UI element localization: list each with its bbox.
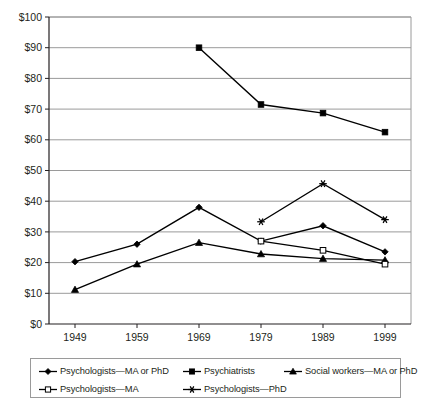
chart-figure: $0$10$20$30$40$50$60$70$80$90$1001949195… bbox=[0, 0, 431, 417]
x-axis-tick-label: 1989 bbox=[311, 331, 335, 343]
data-point-marker-open-square bbox=[320, 248, 326, 254]
data-point-marker-filled-square bbox=[320, 110, 326, 116]
series-1 bbox=[196, 45, 388, 135]
y-axis-tick-label: $100 bbox=[19, 11, 43, 23]
x-axis-tick-label: 1979 bbox=[249, 331, 273, 343]
y-axis-tick-label: $70 bbox=[24, 103, 42, 115]
data-point-marker-filled-diamond bbox=[382, 249, 388, 255]
line-chart-plot: $0$10$20$30$40$50$60$70$80$90$1001949195… bbox=[0, 0, 431, 417]
legend-item-label: Psychologists—MA bbox=[60, 384, 138, 394]
data-point-marker-asterisk bbox=[188, 386, 195, 392]
data-point-marker-open-square bbox=[45, 386, 50, 391]
legend-item-label: Psychologists—PhD bbox=[204, 384, 287, 394]
data-point-marker-filled-square bbox=[189, 368, 194, 373]
x-axis-tick-label: 1949 bbox=[63, 331, 87, 343]
legend-item-label: Psychiatrists bbox=[204, 366, 255, 376]
data-point-marker-open-square bbox=[258, 238, 264, 244]
data-point-marker-filled-diamond bbox=[72, 258, 78, 264]
series-0 bbox=[72, 204, 388, 265]
filled-square-icon bbox=[183, 366, 201, 377]
y-axis-tick-label: $10 bbox=[24, 287, 42, 299]
legend-row: Psychologists—MAPsychologists—PhD bbox=[31, 382, 400, 396]
data-point-marker-filled-diamond bbox=[320, 223, 326, 229]
x-axis-tick-label: 1959 bbox=[125, 331, 149, 343]
x-axis-tick-label: 1969 bbox=[187, 331, 211, 343]
x-axis-tick-label: 1999 bbox=[373, 331, 397, 343]
chart-legend: Psychologists—MA or PhDPsychiatristsSoci… bbox=[30, 358, 401, 398]
data-point-marker-filled-square bbox=[382, 129, 388, 135]
data-point-marker-open-square bbox=[382, 261, 388, 267]
y-axis-tick-label: $0 bbox=[30, 318, 42, 330]
legend-item[interactable]: Psychologists—PhD bbox=[183, 384, 287, 395]
legend-item[interactable]: Social workers—MA or PhD bbox=[284, 366, 417, 377]
series-line bbox=[199, 48, 385, 132]
data-point-marker-filled-diamond bbox=[196, 204, 202, 210]
data-point-marker-filled-square bbox=[196, 45, 202, 51]
y-axis-tick-label: $80 bbox=[24, 72, 42, 84]
data-point-marker-filled-square bbox=[258, 102, 264, 108]
legend-item[interactable]: Psychologists—MA or PhD bbox=[39, 366, 169, 377]
y-axis-tick-label: $60 bbox=[24, 133, 42, 145]
legend-row: Psychologists—MA or PhDPsychiatristsSoci… bbox=[31, 364, 400, 378]
open-square-icon bbox=[39, 384, 57, 395]
data-point-marker-filled-diamond bbox=[45, 368, 51, 374]
y-axis-tick-label: $30 bbox=[24, 226, 42, 238]
y-axis-tick-label: $20 bbox=[24, 256, 42, 268]
series-line bbox=[261, 184, 385, 222]
legend-item[interactable]: Psychiatrists bbox=[183, 366, 255, 377]
series-2 bbox=[71, 239, 388, 292]
legend-item[interactable]: Psychologists—MA bbox=[39, 384, 138, 395]
data-point-marker-filled-diamond bbox=[134, 241, 140, 247]
y-axis-tick-label: $50 bbox=[24, 164, 42, 176]
legend-item-label: Psychologists—MA or PhD bbox=[60, 366, 169, 376]
y-axis-tick-label: $90 bbox=[24, 41, 42, 53]
series-4 bbox=[257, 180, 389, 225]
filled-triangle-icon bbox=[284, 366, 302, 377]
asterisk-icon bbox=[183, 384, 201, 395]
series-line bbox=[75, 243, 385, 290]
legend-item-label: Social workers—MA or PhD bbox=[305, 366, 417, 376]
data-point-marker-filled-triangle bbox=[195, 239, 202, 245]
filled-diamond-icon bbox=[39, 366, 57, 377]
y-axis-tick-label: $40 bbox=[24, 195, 42, 207]
